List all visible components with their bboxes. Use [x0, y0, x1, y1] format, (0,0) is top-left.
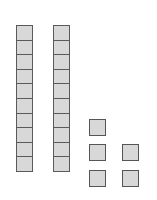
tens-rod-2 [53, 25, 70, 172]
ones-cube [89, 170, 106, 187]
tens-rod-1 [16, 25, 33, 172]
rod-unit [53, 156, 70, 172]
ones-cube [89, 144, 106, 161]
ones-cube [89, 119, 106, 136]
ones-cube [122, 144, 139, 161]
ones-cube [122, 170, 139, 187]
rod-unit [16, 156, 33, 172]
